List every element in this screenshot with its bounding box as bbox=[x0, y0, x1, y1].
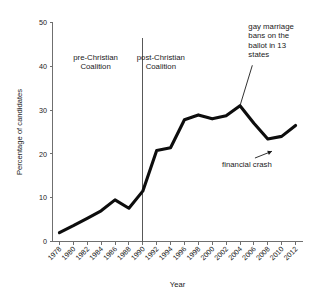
annotation-line: financial crash bbox=[222, 160, 272, 169]
annotation-pre-christian-coalition: pre-ChristianCoalition bbox=[73, 53, 118, 71]
annotation-line: pre-Christian bbox=[73, 53, 118, 62]
y-tick-label: 0 bbox=[43, 237, 47, 246]
annotation-financial-crash: financial crash bbox=[222, 151, 272, 169]
y-tick-label: 10 bbox=[39, 193, 47, 202]
annotation-line: post-Christian bbox=[137, 53, 185, 62]
x-axis-ticks: 1978198019821984198619881990199219941996… bbox=[46, 242, 300, 263]
annotation-line: bans on the bbox=[248, 31, 289, 40]
candidate-percentage-line bbox=[59, 106, 295, 233]
y-axis-ticks: 01020304050 bbox=[39, 18, 53, 246]
line-chart: 01020304050 Percentage of candidates 197… bbox=[0, 0, 322, 299]
y-tick-label: 20 bbox=[39, 150, 47, 159]
x-tick-label: 2012 bbox=[282, 245, 300, 263]
annotation-line: Coalition bbox=[80, 62, 110, 71]
annotation-post-christian-coalition: post-ChristianCoalition bbox=[137, 53, 185, 71]
y-tick-label: 50 bbox=[39, 18, 47, 27]
y-tick-label: 40 bbox=[39, 62, 47, 71]
y-tick-label: 30 bbox=[39, 106, 47, 115]
y-axis-title: Percentage of candidates bbox=[15, 89, 24, 175]
x-axis: 1978198019821984198619881990199219941996… bbox=[46, 242, 303, 290]
y-axis: 01020304050 Percentage of candidates bbox=[15, 18, 53, 246]
chart-container: 01020304050 Percentage of candidates 197… bbox=[0, 0, 322, 299]
annotation-line: gay marriage bbox=[248, 22, 294, 31]
annotation-line: states bbox=[248, 50, 269, 59]
x-axis-title: Year bbox=[170, 280, 186, 289]
annotation-line: Coalition bbox=[146, 62, 176, 71]
annotation-line: ballot in 13 bbox=[248, 41, 286, 50]
annotation-layer: pre-ChristianCoalitionpost-ChristianCoal… bbox=[73, 22, 294, 169]
annotation-gay-marriage-bans: gay marriagebans on theballot in 13state… bbox=[240, 22, 294, 106]
